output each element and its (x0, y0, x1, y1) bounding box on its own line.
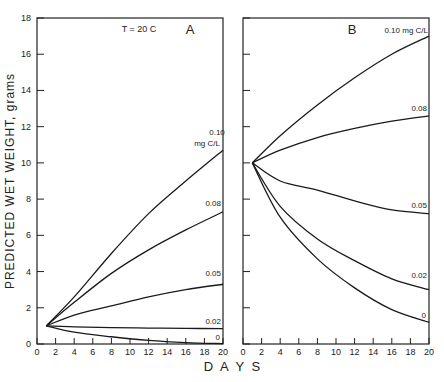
x-tick-label: 12 (144, 347, 154, 357)
x-tick-label: 12 (350, 347, 360, 357)
label-a-0.08: 0.08 (205, 199, 221, 208)
x-tick-label: 2 (259, 347, 264, 357)
label-b-0.02: 0.02 (411, 271, 427, 280)
x-tick-label: 20 (424, 347, 434, 357)
chart-canvas: 0246810121416182002468101214161802468101… (0, 0, 444, 382)
panel-b-series-4 (252, 163, 429, 322)
y-tick-label: 14 (21, 85, 31, 95)
x-tick-label: 10 (331, 347, 341, 357)
label-b-0.10: 0.10 mg C/L (384, 26, 428, 35)
x-tick-label: 14 (162, 347, 172, 357)
x-tick-label: 6 (296, 347, 301, 357)
label-a-mgcl: mg C/L (194, 139, 220, 148)
y-tick-label: 10 (21, 158, 31, 168)
y-tick-label: 16 (21, 49, 31, 59)
y-tick-label: 4 (26, 267, 31, 277)
x-axis-title: D A Y S (204, 359, 262, 374)
panel-b-series-3 (252, 163, 429, 290)
x-tick-label: 8 (109, 347, 114, 357)
label-b-0: 0 (422, 311, 427, 320)
y-tick-label: 6 (26, 230, 31, 240)
panel-b-label: B (348, 22, 357, 37)
panel-b-series-0 (252, 36, 429, 163)
panel-b-frame (243, 18, 429, 344)
x-tick-label: 2 (53, 347, 58, 357)
temperature-label: T = 20 C (122, 24, 157, 34)
panel-b-series-2 (252, 163, 429, 214)
y-tick-label: 12 (21, 122, 31, 132)
x-tick-label: 18 (405, 347, 415, 357)
y-tick-label: 18 (21, 13, 31, 23)
panel-b-series-1 (252, 116, 429, 163)
x-tick-label: 20 (218, 347, 228, 357)
y-axis-title: PREDICTED WET WEIGHT, grams (3, 73, 17, 289)
label-b-0.05: 0.05 (411, 201, 427, 210)
x-tick-label: 6 (90, 347, 95, 357)
panel-a-frame (37, 18, 223, 344)
panel-a-series-2 (46, 284, 223, 326)
x-tick-label: 0 (34, 347, 39, 357)
y-tick-label: 8 (26, 194, 31, 204)
x-tick-label: 16 (181, 347, 191, 357)
x-tick-label: 14 (368, 347, 378, 357)
x-tick-label: 8 (315, 347, 320, 357)
x-tick-label: 16 (387, 347, 397, 357)
label-b-0.08: 0.08 (411, 104, 427, 113)
panel-a-series-1 (46, 212, 223, 326)
label-a-0: 0 (216, 333, 221, 342)
y-tick-label: 0 (26, 339, 31, 349)
x-tick-label: 18 (199, 347, 209, 357)
panel-a-series-3 (46, 326, 223, 329)
label-a-0.10: 0.10 (209, 128, 225, 137)
x-tick-label: 4 (72, 347, 77, 357)
y-tick-label: 2 (26, 303, 31, 313)
x-tick-label: 4 (278, 347, 283, 357)
label-a-0.05: 0.05 (205, 269, 221, 278)
x-tick-label: 10 (125, 347, 135, 357)
figure: 0246810121416182002468101214161802468101… (0, 0, 444, 382)
label-a-0.02: 0.02 (205, 317, 221, 326)
x-tick-label: 0 (240, 347, 245, 357)
panel-a-label: A (186, 22, 195, 37)
